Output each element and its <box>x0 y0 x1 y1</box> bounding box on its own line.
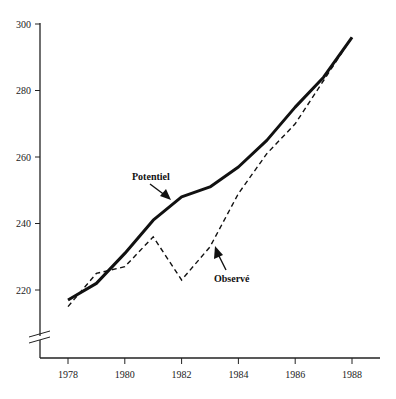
x-ticks: 197819801982198419861988 <box>58 358 362 380</box>
series-potentiel-line <box>68 37 352 300</box>
potentiel-arrow-icon <box>150 184 171 200</box>
x-tick-label: 1978 <box>58 369 78 380</box>
y-tick-label: 260 <box>16 152 31 163</box>
x-tick-label: 1980 <box>115 369 135 380</box>
y-tick-label: 280 <box>16 85 31 96</box>
series-observe-line <box>68 37 352 306</box>
x-tick-label: 1984 <box>228 369 248 380</box>
observe-arrow-icon <box>214 246 226 270</box>
x-tick-label: 1988 <box>342 369 362 380</box>
y-tick-label: 220 <box>16 285 31 296</box>
y-tick-label: 300 <box>16 19 31 30</box>
y-tick-label: 240 <box>16 218 31 229</box>
potentiel-label: Potentiel <box>132 171 170 182</box>
y-ticks: 220240260280300 <box>16 19 40 296</box>
line-chart: 220240260280300 197819801982198419861988… <box>0 0 396 399</box>
x-tick-label: 1986 <box>285 369 305 380</box>
x-tick-label: 1982 <box>172 369 192 380</box>
observe-label: Observé <box>214 273 250 284</box>
